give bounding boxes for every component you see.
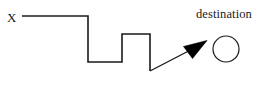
start-label: X [7, 11, 16, 24]
staircase-path [22, 16, 150, 71]
path-diagram: X destination [0, 0, 263, 97]
arrow-head-icon [184, 41, 208, 59]
destination-label: destination [196, 8, 252, 21]
destination-circle [213, 36, 239, 62]
